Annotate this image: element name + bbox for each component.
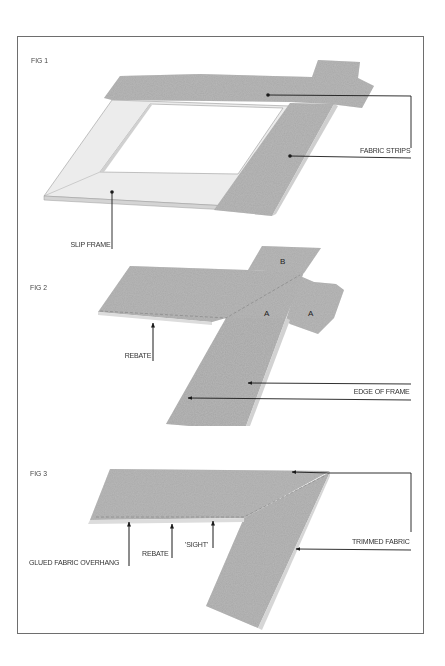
fabric-strip-right [214,103,334,216]
fig2-horizontal-strip [98,266,304,322]
fig2-drawing: B A A [98,246,411,426]
fig1-drawing [44,60,411,249]
fabric-strips-label: FABRIC STRIPS [359,146,410,155]
fig3-label: FIG 3 [30,469,47,478]
fig3-drawing [88,469,411,630]
rebate-label-fig2: REBATE [124,351,151,360]
letter-a-2: A [308,309,314,318]
slip-frame-label: SLIP FRAME [70,240,110,249]
fig2-label: FIG 2 [30,283,47,292]
rebate-label-fig3: REBATE [142,549,169,558]
letter-a-1: A [264,309,270,318]
trimmed-fabric-label: TRIMMED FABRIC [352,537,410,546]
fig1-label: FIG 1 [31,56,48,65]
glued-fabric-overhang-label: GLUED FABRIC OVERHANG [29,558,119,567]
edge-of-frame-label: EDGE OF FRAME [354,387,410,396]
letter-b: B [280,257,285,266]
sight-label: 'SIGHT' [185,540,208,549]
